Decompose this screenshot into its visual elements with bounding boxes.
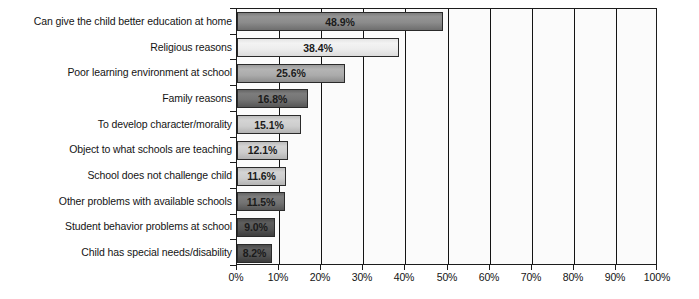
bar-value-label: 25.6% [238,67,344,79]
y-axis-tick [230,85,237,86]
bar-value-label: 15.1% [238,119,300,131]
bar-value-label: 48.9% [238,16,442,28]
category-label: Other problems with available schools [0,195,232,207]
bar: 8.2% [237,244,272,263]
bar: 11.5% [237,192,285,211]
plot-area: 48.9%38.4%25.6%16.8%15.1%12.1%11.6%11.5%… [236,8,657,265]
y-axis-tick [230,34,237,35]
category-label: Child has special needs/disability [0,246,232,258]
x-axis-tick-label: 100% [644,271,670,283]
x-axis-labels: 0%10%20%30%40%50%60%70%80%90%100% [236,271,657,287]
x-axis-tick [404,265,405,270]
bar-value-label: 11.5% [238,196,284,208]
x-axis-tick-label: 30% [352,271,373,283]
category-label: Poor learning environment at school [0,66,232,78]
x-axis-tick-label: 90% [605,271,626,283]
x-axis-tick [362,265,363,270]
x-axis-tick [489,265,490,270]
y-axis-tick [230,239,237,240]
x-axis-ticks [236,265,657,270]
category-label: Student behavior problems at school [0,220,232,232]
y-axis-tick [230,137,237,138]
bar: 15.1% [237,115,301,134]
bar-value-label: 16.8% [238,93,307,105]
x-axis-tick [278,265,279,270]
x-axis-tick-label: 60% [479,271,500,283]
x-axis-tick-label: 70% [521,271,542,283]
category-label: Family reasons [0,92,232,104]
bar-value-label: 9.0% [238,221,274,233]
category-label: Can give the child better education at h… [0,15,232,27]
bar: 16.8% [237,89,308,108]
category-label: Religious reasons [0,41,232,53]
y-axis-tick [230,162,237,163]
x-axis-tick [236,265,237,270]
y-axis-tick [230,214,237,215]
category-label: To develop character/morality [0,118,232,130]
x-axis-tick-label: 40% [394,271,415,283]
x-axis-tick [320,265,321,270]
bar: 25.6% [237,64,345,83]
x-axis-tick-label: 20% [310,271,331,283]
bar-value-label: 8.2% [238,247,271,259]
bar-value-label: 11.6% [238,170,285,182]
bars-layer: 48.9%38.4%25.6%16.8%15.1%12.1%11.6%11.5%… [237,9,656,264]
bar-value-label: 38.4% [238,42,398,54]
category-label: Object to what schools are teaching [0,143,232,155]
bar: 12.1% [237,141,288,160]
y-axis-tick [230,188,237,189]
x-axis-tick [573,265,574,270]
x-axis-tick-label: 0% [229,271,244,283]
y-axis-tick [230,59,237,60]
y-axis-tick [230,111,237,112]
x-axis-tick [656,265,657,270]
x-axis-tick-label: 10% [268,271,289,283]
bar: 11.6% [237,167,286,186]
bar: 9.0% [237,218,275,237]
x-axis-tick-label: 50% [437,271,458,283]
bar: 38.4% [237,38,399,57]
category-axis: Can give the child better education at h… [0,8,232,265]
bar-value-label: 12.1% [238,144,287,156]
category-label: School does not challenge child [0,169,232,181]
x-axis-tick [531,265,532,270]
x-axis-tick [447,265,448,270]
y-axis-tick [230,8,237,9]
x-axis-tick [615,265,616,270]
x-axis-tick-label: 80% [563,271,584,283]
bar: 48.9% [237,12,443,31]
horizontal-bar-chart: Can give the child better education at h… [0,0,699,299]
